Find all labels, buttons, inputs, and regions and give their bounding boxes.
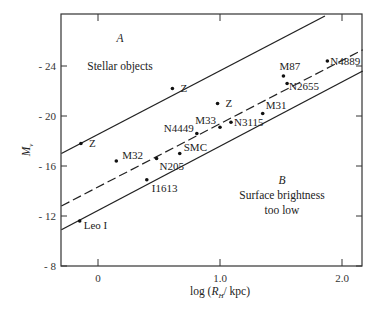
point-label: M32 xyxy=(122,149,143,161)
point-label: I1613 xyxy=(152,182,178,194)
region-b-line2: too low xyxy=(265,204,301,216)
point-label: N4889 xyxy=(330,55,360,67)
y-tick-label: - 24 xyxy=(39,60,57,72)
x-label-prefix: log ( xyxy=(190,285,212,298)
data-point xyxy=(79,142,83,146)
data-point xyxy=(171,87,175,91)
x-tick-label: 2.0 xyxy=(335,272,349,284)
point-label: N2655 xyxy=(289,80,319,92)
region-a-letter: A xyxy=(115,32,124,44)
point-label: N3115 xyxy=(234,116,264,128)
x-tick-label: 0 xyxy=(95,272,101,284)
region-b-letter: B xyxy=(278,174,285,186)
x-axis-label: log (RH/ kpc) xyxy=(190,285,250,300)
point-label: M87 xyxy=(279,60,300,72)
point-label: N205 xyxy=(160,160,185,172)
point-label: Z xyxy=(180,82,187,94)
x-tick-label: 1.0 xyxy=(213,272,227,284)
data-points: ZZZM32N205SMCN4449M33N3115M31M87N2655N48… xyxy=(78,55,361,231)
point-label: Z xyxy=(226,97,233,109)
point-label: N4449 xyxy=(164,122,194,134)
data-point xyxy=(218,125,222,129)
x-label-suffix: / kpc) xyxy=(223,285,250,298)
data-point xyxy=(115,159,119,163)
data-point xyxy=(155,157,159,161)
data-point xyxy=(178,152,182,156)
point-label: Leo I xyxy=(84,219,108,231)
point-label: SMC xyxy=(184,141,207,153)
chart-canvas: 01.02.0- 8- 12- 16- 20- 24 ZZZM32N205SMC… xyxy=(0,0,382,309)
y-label-subscript: v xyxy=(27,143,35,147)
y-tick-label: - 20 xyxy=(39,110,57,122)
data-point xyxy=(229,120,233,124)
data-point xyxy=(282,74,286,78)
point-label: M33 xyxy=(195,114,216,126)
y-axis-label: Mv xyxy=(20,143,35,158)
y-tick-label: - 12 xyxy=(39,210,56,222)
x-label-var: R xyxy=(210,285,218,297)
region-a-text: Stellar objects xyxy=(87,60,153,73)
data-point xyxy=(261,112,265,116)
mean-relation-dashed-line xyxy=(61,50,362,206)
point-label: Z xyxy=(89,137,96,149)
data-point xyxy=(326,59,330,63)
y-tick-label: - 16 xyxy=(39,160,57,172)
region-a-annotation: A Stellar objects xyxy=(87,32,153,73)
data-point xyxy=(78,219,82,223)
y-tick-label: - 8 xyxy=(44,260,56,272)
point-label: M31 xyxy=(266,99,287,111)
data-point xyxy=(216,102,220,106)
data-point xyxy=(195,132,199,136)
region-b-line1: Surface brightness xyxy=(239,189,325,202)
region-b-annotation: B Surface brightness too low xyxy=(239,174,325,216)
data-point xyxy=(145,178,149,182)
boundary-solid-line xyxy=(61,71,362,230)
